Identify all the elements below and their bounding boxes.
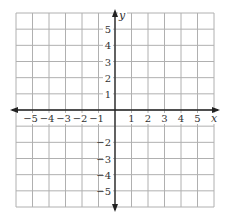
y-tick-label: −4: [96, 170, 111, 181]
y-tick-label: −2: [96, 137, 111, 148]
x-tick-label: 2: [145, 113, 151, 124]
coordinate-plane: −5−4−3−2−11234554321−2−3−4−5xy: [0, 0, 228, 224]
x-axis-label: x: [211, 112, 218, 125]
y-tick-label: 3: [105, 57, 111, 68]
x-tick-label: −5: [23, 113, 38, 124]
x-tick-label: 3: [161, 113, 167, 124]
y-axis-label: y: [118, 9, 126, 22]
y-tick-label: −5: [96, 186, 111, 197]
y-tick-label: 4: [105, 40, 111, 51]
x-tick-label: −1: [89, 113, 104, 124]
y-tick-label: −3: [96, 154, 111, 165]
y-axis-down-arrow-icon: [112, 204, 118, 212]
y-tick-label: 1: [105, 89, 111, 100]
y-tick-label: 2: [105, 73, 111, 84]
y-tick-label: 5: [105, 24, 111, 35]
x-tick-label: 4: [178, 113, 184, 124]
x-axis-left-arrow-icon: [10, 107, 18, 113]
x-tick-label: 5: [194, 113, 200, 124]
x-tick-label: −4: [40, 113, 55, 124]
x-tick-label: −3: [56, 113, 71, 124]
x-tick-label: −2: [73, 113, 88, 124]
x-tick-label: 1: [128, 113, 134, 124]
